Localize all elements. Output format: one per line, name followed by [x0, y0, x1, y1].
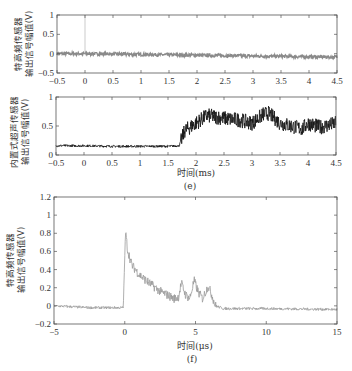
y-tick-label: 0 [47, 301, 52, 311]
y-tick-label: −0.5 [38, 68, 55, 78]
x-tick-label: 1 [139, 76, 144, 86]
x-tick-label: 1.5 [162, 158, 174, 168]
x-tick-label: 0.5 [107, 76, 119, 86]
top-ylabel-line2: 输出信号幅值(V) [24, 11, 34, 77]
series-line [57, 52, 337, 58]
x-tick-label: 5 [193, 327, 198, 337]
panel-middle-ultrasonic: −0.500.511.522.533.544.500.51 [42, 92, 342, 168]
x-tick-label: 2.5 [219, 76, 231, 86]
x-tick-label: 2 [194, 158, 199, 168]
figure: −0.500.511.522.533.544.5−0.500.51 特高频传感器… [0, 0, 352, 371]
x-tick-label: 4.5 [331, 76, 343, 86]
mid-caption: (e) [184, 181, 196, 191]
x-tick-label: 2 [195, 76, 200, 86]
y-tick-label: 1 [50, 10, 55, 20]
x-tick-label: 1.5 [163, 76, 175, 86]
panel-bottom-uhf: −5051015−0.200.20.40.60.811.2 [35, 192, 342, 337]
series-line [54, 233, 337, 311]
axes-frame [54, 197, 337, 324]
y-tick-label: 0 [49, 150, 54, 160]
panel-top-uhf: −0.500.511.522.533.544.5−0.500.51 [38, 10, 343, 86]
bot-caption: (f) [187, 354, 197, 364]
x-tick-label: 3.5 [275, 76, 287, 86]
bot-ylabel-line1: 特高频传感器 [5, 233, 15, 287]
mid-ylabel-line2: 输出信号幅值(V) [20, 99, 30, 165]
top-ylabel-line1: 特高频传感器 [13, 17, 23, 71]
x-tick-label: 2.5 [218, 158, 230, 168]
x-tick-label: 4 [306, 158, 311, 168]
y-tick-label: 0.4 [40, 265, 52, 275]
axes-frame [57, 15, 337, 73]
y-tick-label: 0.5 [42, 121, 54, 131]
x-tick-label: 4 [307, 76, 312, 86]
x-tick-label: 0 [82, 158, 87, 168]
y-tick-label: 0.2 [40, 283, 51, 293]
x-tick-label: 0.5 [106, 158, 118, 168]
bot-ylabel-line2: 输出信号幅值(V) [16, 227, 26, 293]
x-tick-label: 4.5 [330, 158, 342, 168]
x-tick-label: 0 [123, 327, 128, 337]
x-tick-label: 0 [83, 76, 88, 86]
x-tick-label: 15 [333, 327, 343, 337]
y-tick-label: 1 [49, 92, 54, 102]
y-tick-label: 0.6 [40, 246, 52, 256]
x-tick-label: 1 [138, 158, 143, 168]
x-tick-label: 3 [250, 158, 255, 168]
mid-xlabel: 时间(ms) [177, 167, 215, 178]
x-tick-label: 3.5 [274, 158, 286, 168]
y-tick-label: −0.2 [35, 319, 51, 329]
y-tick-label: 1 [47, 210, 52, 220]
x-tick-label: 10 [262, 327, 272, 337]
y-tick-label: 0.8 [40, 228, 52, 238]
y-tick-label: 1.2 [40, 192, 51, 202]
series-line [56, 106, 336, 147]
y-tick-label: 0 [50, 49, 55, 59]
y-tick-label: 0.5 [43, 29, 55, 39]
bot-xlabel: 时间(μs) [177, 340, 213, 351]
mid-ylabel-line1: 内置式超声传感器 [9, 96, 19, 168]
x-tick-label: 3 [251, 76, 256, 86]
